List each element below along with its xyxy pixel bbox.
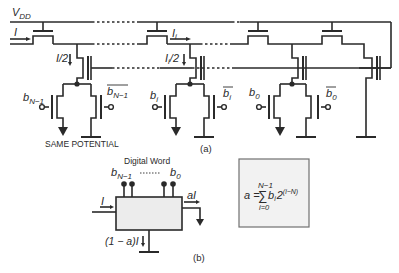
ladder-transistor-3 [232, 22, 292, 44]
branch-current-i-label: Ii [172, 27, 177, 41]
lsb-label: b0 [170, 166, 181, 181]
switch-pair-n1 [40, 81, 114, 137]
switch-pair-i [153, 81, 227, 137]
sum-lower-limit: i=0 [259, 203, 270, 212]
current-divider-block [116, 197, 182, 230]
same-potential-note: SAME POTENTIAL [45, 139, 119, 149]
block-output-current: aI [187, 189, 196, 201]
ladder-transistor-2 [138, 22, 167, 44]
figure-a-circuit: VDD I [10, 6, 391, 154]
branch-current-n1-label: I/2 [56, 52, 68, 64]
bn1-bar-label: bN−1 [107, 85, 128, 100]
equation-box: N−1 a = ∑ bi2(i−N) i=0 [239, 159, 309, 227]
bn1-label: bN−1 [23, 91, 44, 106]
cascode-transistor-i [190, 44, 204, 84]
figure-b-caption: (b) [193, 252, 205, 263]
bi-label: bi [150, 89, 158, 104]
figure-a-caption: (a) [200, 143, 212, 154]
figure-b-block: Digital Word bN−1 b0 I aI (1 − a)I (b) [92, 156, 205, 263]
sum-symbol: ∑ [258, 188, 267, 203]
cascode-transistor-n1 [77, 44, 91, 84]
bi-bar-label: bi [223, 87, 231, 102]
switch-pair-0 [257, 81, 331, 137]
cascode-transistor-0 [292, 44, 306, 84]
msb-label: bN−1 [111, 166, 132, 181]
digital-word-label: Digital Word [124, 156, 170, 166]
branch-current-i-half-label: Ii/2 [165, 52, 179, 66]
b0-bar-label: b0 [326, 87, 337, 102]
input-current-label: I [14, 26, 17, 38]
current-division-dac-diagram: VDD I [0, 0, 399, 273]
bit-pins [121, 181, 176, 197]
vdd-label: VDD [12, 6, 31, 21]
b0-label: b0 [249, 86, 260, 101]
block-remainder-current: (1 − a)I [105, 235, 139, 247]
block-input-current: I [101, 195, 104, 207]
